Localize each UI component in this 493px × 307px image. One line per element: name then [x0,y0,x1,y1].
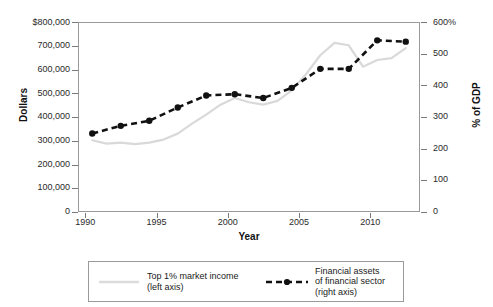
right-tick-label-400: 400 [433,81,448,90]
right-tick-label-300: 300 [433,112,448,121]
left-tick-label-500000: 500,000 [37,89,70,98]
left-tickmark-300000 [72,141,78,142]
right-tickmark-600 [421,22,427,23]
chart-figure: $800,000 700,000 600,000 500,000 400,000… [0,0,493,307]
x-tick-label-1995: 1995 [146,218,166,227]
right-tick-label-200: 200 [433,144,448,153]
right-tickmark-100 [421,180,427,181]
x-tick-label-2000: 2000 [218,218,238,227]
left-tickmark-100000 [72,188,78,189]
right-tickmark-200 [421,149,427,150]
left-tickmark-0 [72,212,78,213]
x-axis-title: Year [78,232,420,242]
plot-area [78,22,420,212]
x-tick-label-2005: 2005 [289,218,309,227]
x-tick-label-1990: 1990 [75,218,95,227]
right-tick-label-500: 500 [433,49,448,58]
right-tick-label-0: 0 [433,207,438,216]
left-tickmark-800000 [72,22,78,23]
right-tickmark-0 [421,212,427,213]
left-tick-label-400000: 400,000 [37,112,70,121]
legend-entry-top-1pct[interactable]: Top 1% market income (left axis) [89,271,263,292]
right-axis-ticks: 600% 500 400 300 200 100 0 [421,0,493,307]
left-axis-title: Dollars [19,65,29,145]
legend-label-financial-assets: Financial assets of financial sector (ri… [315,266,385,298]
legend-entry-financial-assets[interactable]: Financial assets of financial sector (ri… [263,266,403,298]
left-tickmark-600000 [72,70,78,71]
right-tickmark-400 [421,85,427,86]
right-axis-title: % of GDP [472,65,482,145]
chart-legend: Top 1% market income (left axis) Financi… [88,261,404,302]
right-tick-label-600: 600% [433,18,456,27]
left-tickmark-700000 [72,46,78,47]
x-tick-label-2010: 2010 [360,218,380,227]
left-tick-label-100000: 100,000 [37,183,70,192]
legend-key-solid-gray-line [97,276,141,288]
left-tick-label-800000: $800,000 [32,18,70,27]
right-tickmark-300 [421,117,427,118]
right-tick-label-100: 100 [433,175,448,184]
legend-label-top-1pct: Top 1% market income (left axis) [147,271,239,292]
left-tickmark-200000 [72,165,78,166]
left-tick-label-300000: 300,000 [37,136,70,145]
right-tickmark-500 [421,54,427,55]
left-tick-label-0: 0 [65,207,70,216]
left-tick-label-600000: 600,000 [37,65,70,74]
left-axis-ticks: $800,000 700,000 600,000 500,000 400,000… [0,0,70,307]
left-tickmark-400000 [72,117,78,118]
left-tick-label-700000: 700,000 [37,41,70,50]
left-tick-label-200000: 200,000 [37,160,70,169]
left-tickmark-500000 [72,93,78,94]
legend-key-dashed-black-marker [265,276,309,288]
